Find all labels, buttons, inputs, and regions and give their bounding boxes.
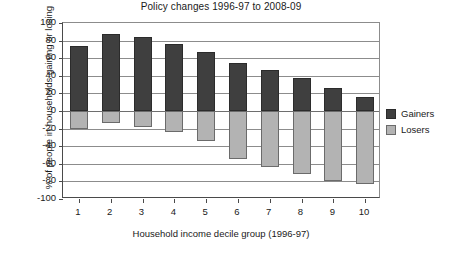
bar-losers bbox=[261, 111, 279, 167]
bar-losers bbox=[293, 111, 311, 174]
legend-item-losers: Losers bbox=[386, 124, 434, 135]
x-axis-tick-mark bbox=[174, 199, 175, 203]
y-axis-tick-mark bbox=[59, 146, 63, 147]
bar-gainers bbox=[261, 70, 279, 111]
x-axis-tick-mark bbox=[270, 199, 271, 203]
y-axis-tick-label: -60 bbox=[26, 158, 56, 168]
bar-losers bbox=[70, 111, 88, 129]
y-axis-tick-label: 60 bbox=[26, 52, 56, 62]
y-axis-tick-mark bbox=[59, 129, 63, 130]
y-axis-tick-label: -100 bbox=[26, 193, 56, 203]
gridline bbox=[63, 181, 379, 182]
y-axis-tick-label: -40 bbox=[26, 140, 56, 150]
y-axis-tick-mark bbox=[59, 199, 63, 200]
x-axis-tick-mark bbox=[238, 199, 239, 203]
plot-area bbox=[62, 22, 380, 198]
chart-title: Policy changes 1996-97 to 2008-09 bbox=[62, 1, 380, 12]
y-axis-tick-label: 80 bbox=[26, 35, 56, 45]
y-axis-tick-mark bbox=[59, 181, 63, 182]
legend-item-gainers: Gainers bbox=[386, 108, 434, 119]
y-axis-tick-label: -20 bbox=[26, 123, 56, 133]
bar-losers bbox=[229, 111, 247, 159]
bar-gainers bbox=[293, 78, 311, 111]
x-axis-tick-mark bbox=[302, 199, 303, 203]
y-axis-tick-mark bbox=[59, 111, 63, 112]
y-axis-tick-label: 20 bbox=[26, 87, 56, 97]
x-axis-title: Household income decile group (1996-97) bbox=[62, 228, 380, 239]
y-axis-tick-mark bbox=[59, 76, 63, 77]
legend-swatch-gainers-icon bbox=[386, 109, 396, 119]
bar-losers bbox=[134, 111, 152, 127]
bar-losers bbox=[324, 111, 342, 181]
bar-gainers bbox=[134, 37, 152, 111]
x-axis-tick-mark bbox=[143, 199, 144, 203]
bar-losers bbox=[356, 111, 374, 184]
y-axis-tick-label: 100 bbox=[26, 17, 56, 27]
legend-label-gainers: Gainers bbox=[401, 108, 434, 119]
chart-container: Policy changes 1996-97 to 2008-09 % of p… bbox=[0, 0, 465, 255]
y-axis-tick-mark bbox=[59, 23, 63, 24]
bar-gainers bbox=[165, 44, 183, 111]
y-axis-tick-label: 0 bbox=[26, 105, 56, 115]
y-axis-tick-label: 40 bbox=[26, 70, 56, 80]
x-axis-tick-mark bbox=[333, 199, 334, 203]
y-axis-title: % of people in households gaining or los… bbox=[43, 0, 54, 198]
x-axis-tick-mark bbox=[79, 199, 80, 203]
x-axis-tick-label: 10 bbox=[344, 206, 384, 217]
bar-losers bbox=[165, 111, 183, 132]
bar-gainers bbox=[102, 34, 120, 111]
bar-gainers bbox=[356, 97, 374, 111]
y-axis-tick-mark bbox=[59, 58, 63, 59]
x-axis-tick-mark bbox=[365, 199, 366, 203]
y-axis-tick-mark bbox=[59, 164, 63, 165]
bar-gainers bbox=[70, 46, 88, 111]
chart-legend: Gainers Losers bbox=[386, 108, 434, 140]
y-axis-tick-mark bbox=[59, 93, 63, 94]
y-axis-tick-mark bbox=[59, 41, 63, 42]
x-axis-tick-mark bbox=[111, 199, 112, 203]
y-axis-tick-label: -80 bbox=[26, 175, 56, 185]
bar-gainers bbox=[324, 88, 342, 111]
bar-losers bbox=[197, 111, 215, 141]
bar-gainers bbox=[229, 63, 247, 111]
bar-gainers bbox=[197, 52, 215, 111]
legend-swatch-losers-icon bbox=[386, 125, 396, 135]
x-axis-tick-mark bbox=[206, 199, 207, 203]
bar-losers bbox=[102, 111, 120, 123]
legend-label-losers: Losers bbox=[401, 124, 430, 135]
